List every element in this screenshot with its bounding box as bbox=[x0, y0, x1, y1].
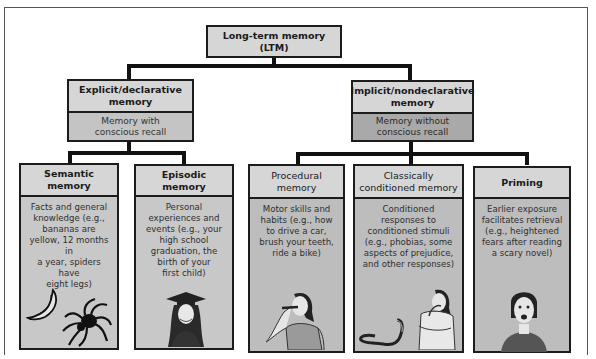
connector-explicit-bar bbox=[68, 151, 186, 155]
priming-description: Earlier exposure facilitates retrieval (… bbox=[475, 199, 569, 259]
connector-root-bar bbox=[127, 64, 412, 68]
implicit-memory-description: Memory without conscious recall bbox=[353, 112, 472, 140]
toothbrushing-person-icon bbox=[258, 288, 338, 350]
semantic-memory-title: Semantic memory bbox=[21, 165, 117, 197]
priming-box: Priming Earlier exposure facilitates ret… bbox=[473, 166, 571, 353]
implicit-memory-title: Implicit/nondeclarative memory bbox=[353, 82, 472, 112]
implicit-memory-box: Implicit/nondeclarative memory Memory wi… bbox=[351, 80, 474, 142]
graduate-icon bbox=[162, 289, 210, 349]
episodic-memory-title: Episodic memory bbox=[136, 166, 232, 197]
priming-title: Priming bbox=[475, 168, 569, 199]
ltm-root-box: Long-term memory (LTM) bbox=[206, 25, 342, 58]
classically-conditioned-memory-title: Classically conditioned memory bbox=[355, 166, 462, 199]
episodic-memory-description: Personal experiences and events (e.g., y… bbox=[136, 197, 232, 279]
spider-icon bbox=[61, 297, 113, 347]
connector-episodic-stem bbox=[182, 151, 186, 164]
connector-priming-stem bbox=[525, 152, 529, 165]
explicit-memory-description: Memory with conscious recall bbox=[69, 111, 192, 140]
semantic-memory-description: Facts and general knowledge (e.g., banan… bbox=[21, 197, 117, 290]
explicit-memory-box: Explicit/declarative memory Memory with … bbox=[67, 79, 194, 142]
frightened-person-icon bbox=[411, 286, 461, 350]
episodic-memory-box: Episodic memory Personal experiences and… bbox=[134, 164, 234, 350]
scared-woman-icon bbox=[497, 288, 551, 352]
ltm-title: Long-term memory (LTM) bbox=[208, 27, 340, 56]
explicit-memory-title: Explicit/declarative memory bbox=[69, 81, 192, 111]
classically-conditioned-memory-description: Conditioned responses to conditioned sti… bbox=[355, 199, 462, 270]
procedural-memory-title: Procedural memory bbox=[250, 166, 343, 199]
snake-icon bbox=[357, 318, 411, 348]
procedural-memory-box: Procedural memory Motor skills and habit… bbox=[248, 164, 345, 353]
banana-icon bbox=[25, 287, 63, 325]
procedural-memory-description: Motor skills and habits (e.g., how to dr… bbox=[250, 199, 343, 259]
classically-conditioned-memory-box: Classically conditioned memory Condition… bbox=[353, 164, 464, 353]
semantic-memory-box: Semantic memory Facts and general knowle… bbox=[19, 163, 119, 350]
